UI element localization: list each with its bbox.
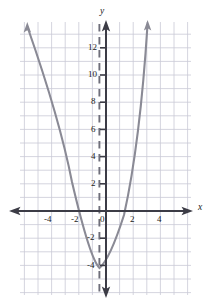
y-tick-label-8: 8 — [91, 97, 96, 106]
y-axis-label: y — [100, 7, 104, 17]
x-tick-label-0: 0 — [100, 215, 105, 224]
x-tick-label-4: 4 — [157, 215, 162, 224]
graph-figure: 12 10 8 6 4 2 -2 -4 -4 -2 0 2 4 y x — [0, 0, 213, 305]
x-tick-label-neg2: -2 — [71, 215, 79, 224]
y-tick-label-4: 4 — [91, 152, 96, 161]
x-tick-label-2: 2 — [130, 215, 135, 224]
y-tick-label-12: 12 — [88, 43, 97, 52]
y-tick-label-neg2: -2 — [87, 233, 95, 242]
y-tick-label-6: 6 — [91, 125, 96, 134]
coordinate-plane — [0, 0, 213, 305]
y-tick-label-neg4: -4 — [87, 261, 95, 270]
y-tick-label-2: 2 — [91, 179, 96, 188]
y-tick-label-10: 10 — [88, 70, 97, 79]
x-tick-label-neg4: -4 — [44, 215, 52, 224]
x-axis-label: x — [198, 203, 202, 213]
